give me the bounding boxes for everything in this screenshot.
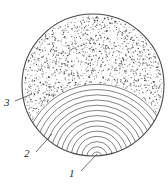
stippled-zone — [24, 16, 163, 120]
growth-ring — [71, 131, 123, 183]
growth-ring — [45, 105, 149, 190]
wood-cross-section-figure: 1 2 3 — [0, 0, 168, 190]
callout-label-2: 2 — [24, 148, 30, 159]
callout-label-3: 3 — [4, 97, 10, 108]
figure-canvas — [0, 0, 168, 190]
callout-label-1: 1 — [69, 168, 75, 179]
growth-ring — [30, 90, 165, 190]
leader-line-1 — [81, 154, 97, 171]
growth-ring — [66, 126, 128, 188]
growth-ring — [35, 95, 159, 190]
growth-ring — [76, 136, 117, 177]
growth-ring — [87, 147, 107, 167]
growth-ring — [92, 152, 102, 162]
growth-rings-group — [24, 84, 168, 190]
growth-ring — [82, 142, 113, 173]
